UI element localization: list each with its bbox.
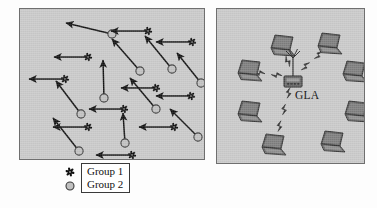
circle-icon	[194, 133, 202, 141]
velocity-arrow	[170, 109, 198, 137]
gear-bore	[191, 41, 192, 42]
circle-icon	[100, 94, 108, 102]
gear-icon	[62, 164, 78, 176]
legend-box: Group 1 Group 2	[81, 163, 130, 193]
gear-icon	[145, 28, 151, 34]
legend: Group 1 Group 2	[62, 163, 130, 193]
mobility-node	[130, 78, 160, 113]
legend-symbol-column	[62, 163, 78, 190]
gear-icon	[62, 76, 68, 82]
gear-bore	[147, 30, 148, 31]
laptop-icon	[343, 61, 364, 82]
legend-label-group-1: Group 1	[87, 165, 123, 178]
laptop-icon	[318, 33, 342, 54]
gear-icon	[189, 39, 195, 45]
mobility-node	[89, 106, 127, 112]
wireless-bolt	[286, 88, 291, 99]
wireless-bolt	[282, 104, 287, 115]
mobility-node	[56, 81, 85, 118]
gear-icon	[67, 169, 74, 176]
figure-root: GLA Group 1 Group 2	[0, 0, 377, 208]
circle-icon	[66, 182, 74, 190]
node-circle	[168, 65, 176, 73]
velocity-arrow	[130, 78, 156, 109]
mobility-node	[96, 152, 135, 158]
access-point-led	[290, 83, 292, 85]
velocity-arrow	[66, 23, 112, 34]
wireless-bolt	[277, 121, 282, 132]
mobility-node	[111, 28, 151, 34]
mobility-node	[54, 54, 91, 60]
velocity-arrow	[112, 39, 140, 71]
gear-bore	[87, 56, 88, 57]
laptop-icon	[238, 101, 262, 122]
gear-icon	[129, 152, 135, 158]
circle-icon	[152, 105, 160, 113]
gear-bore	[123, 108, 124, 109]
circle-icon	[121, 139, 129, 147]
wireless-link	[277, 88, 291, 132]
node-circle	[121, 139, 129, 147]
mobility-node	[156, 39, 195, 45]
mobility-node	[53, 118, 83, 155]
wireless-bolt	[285, 56, 290, 66]
wireless-bolt	[301, 63, 309, 70]
circle-icon	[75, 147, 83, 155]
gear-icon	[85, 124, 91, 130]
gear-bore	[190, 95, 191, 96]
access-point-led	[294, 83, 296, 85]
circle-icon	[168, 65, 176, 73]
access-point-led	[297, 83, 299, 85]
node-circle	[194, 133, 202, 141]
velocity-arrow	[145, 36, 172, 69]
wireless-topology-canvas	[217, 9, 364, 163]
laptop-icon	[262, 134, 286, 155]
mobility-node	[177, 53, 204, 87]
velocity-arrow	[103, 60, 104, 98]
gear-bore	[131, 154, 132, 155]
mobility-node	[100, 60, 108, 102]
gear-bore	[64, 78, 65, 79]
circle-icon	[136, 67, 144, 75]
mobility-node	[156, 93, 194, 99]
gear-icon	[121, 106, 127, 112]
gear-bore	[87, 126, 88, 127]
circle-icon	[197, 79, 204, 87]
laptop-icon	[271, 35, 295, 56]
node-circle	[136, 67, 144, 75]
mobility-node	[139, 124, 177, 130]
mobility-node	[29, 76, 68, 82]
velocity-arrow	[53, 118, 79, 151]
mobility-scenario-canvas	[20, 9, 204, 159]
wireless-bolt	[271, 73, 282, 78]
access-point-panel	[287, 78, 300, 81]
mobility-scenario-panel	[19, 8, 205, 160]
circle-icon	[77, 110, 85, 118]
node-circle	[197, 79, 204, 87]
node-circle	[100, 94, 108, 102]
gear-icon	[188, 93, 194, 99]
gear-bore	[173, 126, 174, 127]
access-point-label: GLA	[295, 89, 319, 101]
wireless-link	[301, 51, 322, 69]
gear-icon	[153, 85, 159, 91]
node-circle	[66, 182, 74, 190]
access-point-led	[287, 83, 289, 85]
gear-bore	[69, 171, 70, 172]
gear-icon	[171, 124, 177, 130]
gear-bore	[155, 87, 156, 88]
laptop-icon	[345, 101, 364, 122]
node-circle	[152, 105, 160, 113]
laptop-icon	[321, 131, 345, 152]
legend-label-group-2: Group 2	[87, 178, 123, 191]
wireless-topology-panel: GLA	[216, 8, 365, 164]
laptop-icon	[238, 60, 262, 81]
mobility-node	[66, 23, 116, 38]
node-circle	[77, 110, 85, 118]
mobility-node	[121, 113, 129, 147]
circle-icon	[62, 178, 78, 190]
velocity-arrow	[177, 53, 201, 83]
node-circle	[75, 147, 83, 155]
velocity-arrow	[56, 81, 81, 114]
mobility-node	[112, 39, 144, 75]
